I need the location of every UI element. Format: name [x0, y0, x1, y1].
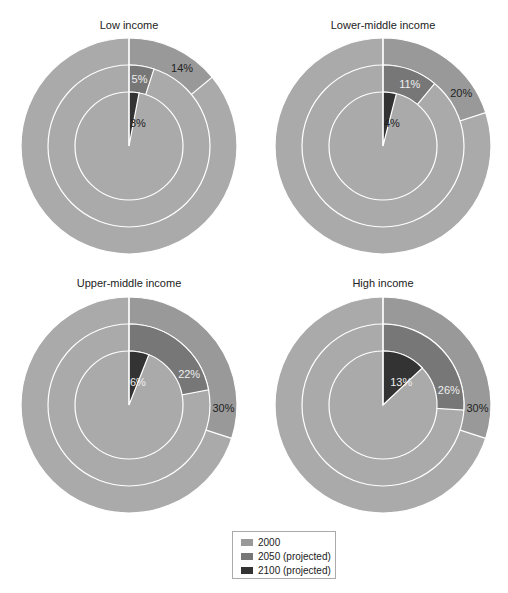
slice-label: 14%: [171, 62, 193, 74]
slice-label: 4%: [384, 117, 400, 129]
slice-label: 30%: [212, 402, 234, 414]
panel-title-high-income: High income: [256, 277, 508, 289]
slice-label: 20%: [450, 87, 472, 99]
chart-canvas: 14%5%3%20%11%4%30%22%6%30%26%13%: [0, 0, 508, 593]
legend-swatch-2000: [241, 539, 253, 546]
legend-swatch-2100: [241, 567, 253, 574]
slice-label: 6%: [130, 376, 146, 388]
panel-title-low-income: Low income: [2, 19, 256, 31]
slice-label: 3%: [130, 117, 146, 129]
slice-label: 13%: [390, 376, 412, 388]
legend-item-2050: 2050 (projected): [233, 549, 335, 563]
slice-label: 11%: [399, 78, 420, 90]
slice-label: 22%: [178, 368, 200, 380]
legend: 2000 2050 (projected) 2100 (projected): [232, 531, 336, 579]
panel-title-lower-middle-income: Lower-middle income: [256, 19, 508, 31]
slice-label: 30%: [466, 402, 488, 414]
legend-item-2000: 2000: [233, 535, 335, 549]
legend-label: 2100 (projected): [258, 565, 331, 576]
legend-item-2100: 2100 (projected): [233, 563, 335, 577]
legend-label: 2050 (projected): [258, 551, 331, 562]
legend-swatch-2050: [241, 553, 253, 560]
slice-label: 5%: [132, 73, 148, 85]
slice-label: 26%: [438, 384, 460, 396]
panel-title-upper-middle-income: Upper-middle income: [2, 277, 256, 289]
legend-label: 2000: [258, 537, 280, 548]
